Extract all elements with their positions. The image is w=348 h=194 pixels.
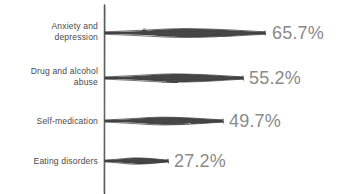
bar-chart: Anxiety and depression Drug and alcohol … <box>0 0 348 194</box>
bar <box>105 29 266 38</box>
value-label-1: 55.2% <box>249 69 301 87</box>
bar <box>105 117 224 125</box>
value-label-0: 65.7% <box>272 24 324 42</box>
bar <box>105 158 169 164</box>
category-label-1: Drug and alcohol abuse <box>6 66 98 87</box>
bars-group <box>105 29 266 165</box>
category-label-0: Anxiety and depression <box>6 21 98 42</box>
bar <box>105 74 244 82</box>
category-label-3: Eating disorders <box>6 156 98 167</box>
value-label-3: 27.2% <box>174 152 226 170</box>
category-label-2: Self-medication <box>6 116 98 127</box>
value-label-2: 49.7% <box>229 112 281 130</box>
